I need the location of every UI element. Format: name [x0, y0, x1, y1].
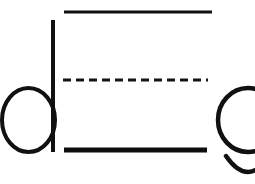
- worksheet-canvas: [0, 0, 255, 184]
- handwriting-worksheet: Ascender line (solid) Midline (dashed) B…: [0, 0, 255, 184]
